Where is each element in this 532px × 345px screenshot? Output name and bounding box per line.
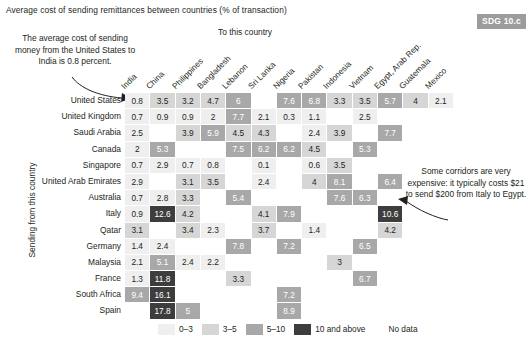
row-header: Saudi Arabia xyxy=(74,127,122,137)
row-header: Canada xyxy=(92,144,121,154)
heatmap-cell: 4 xyxy=(302,174,326,189)
heatmap-cell xyxy=(327,271,351,286)
heatmap-cell xyxy=(226,158,250,173)
heatmap-cell: 3.5 xyxy=(150,93,174,108)
heatmap-cell: 0.9 xyxy=(150,109,174,124)
heatmap-cell: 4.3 xyxy=(252,125,276,140)
column-header: Mexico xyxy=(423,66,448,91)
heatmap-cell: 2.1 xyxy=(125,255,149,270)
heatmap-cell xyxy=(327,109,351,124)
heatmap-cell xyxy=(378,109,402,124)
heatmap-cell xyxy=(353,206,377,221)
heatmap-cell xyxy=(403,206,427,221)
heatmap-cell: 2.4 xyxy=(176,255,200,270)
legend-swatch xyxy=(158,324,175,335)
heatmap-cell xyxy=(378,190,402,205)
heatmap-cell: 0.8 xyxy=(201,158,225,173)
heatmap-cell xyxy=(226,303,250,318)
row-header: Spain xyxy=(100,305,121,315)
left-axis-label: Sending from this country xyxy=(27,150,37,270)
heatmap-cell: 6.2 xyxy=(252,142,276,157)
heatmap-cell xyxy=(176,142,200,157)
heatmap-cell: 4.2 xyxy=(378,223,402,238)
heatmap-cell xyxy=(201,239,225,254)
heatmap-cell xyxy=(201,271,225,286)
heatmap-cell: 7.6 xyxy=(327,190,351,205)
heatmap-cell xyxy=(201,303,225,318)
heatmap-cell xyxy=(429,109,453,124)
heatmap-cell: 1.3 xyxy=(125,271,149,286)
heatmap-cell: 3.2 xyxy=(176,93,200,108)
heatmap-cell xyxy=(252,271,276,286)
row-header: France xyxy=(95,273,121,283)
heatmap-cell xyxy=(378,271,402,286)
heatmap-cell: 7.2 xyxy=(277,239,301,254)
heatmap-cell: 4.2 xyxy=(176,206,200,221)
column-headers: IndiaChinaPhilippinesBangladeshLebanonSr… xyxy=(125,45,457,93)
heatmap-cell: 0.6 xyxy=(302,158,326,173)
heatmap-cell: 2.9 xyxy=(150,158,174,173)
heatmap-cell xyxy=(150,125,174,140)
legend-label: 10 and above xyxy=(315,324,365,334)
heatmap-cell xyxy=(353,255,377,270)
heatmap-cell xyxy=(277,190,301,205)
heatmap-cell xyxy=(150,223,174,238)
heatmap-cell xyxy=(302,190,326,205)
heatmap-cell: 2.2 xyxy=(201,255,225,270)
heatmap-cell xyxy=(429,271,453,286)
heatmap-cell xyxy=(353,158,377,173)
row-header: Australia xyxy=(88,192,121,202)
sdg-badge: SDG 10.c xyxy=(477,14,526,29)
heatmap-cell xyxy=(403,174,427,189)
heatmap-cell xyxy=(378,158,402,173)
heatmap-cell xyxy=(403,125,427,140)
column-header: Nigeria xyxy=(271,66,296,91)
heatmap-cell xyxy=(252,255,276,270)
heatmap-cell xyxy=(201,287,225,302)
heatmap-cell xyxy=(327,206,351,221)
heatmap-cell: 6.5 xyxy=(353,239,377,254)
row-header: Malaysia xyxy=(88,257,121,267)
legend-swatch xyxy=(202,324,219,335)
heatmap-cell: 8.1 xyxy=(327,174,351,189)
heatmap-cell: 4.1 xyxy=(252,206,276,221)
heatmap-cell: 3.5 xyxy=(327,158,351,173)
heatmap-cell xyxy=(403,303,427,318)
heatmap-cell xyxy=(201,190,225,205)
heatmap-cell: 4.7 xyxy=(201,93,225,108)
legend-item: 10 and above xyxy=(294,324,365,335)
heatmap-cell: 0.7 xyxy=(176,158,200,173)
heatmap-cell: 0.7 xyxy=(125,158,149,173)
heatmap-cell: 7.6 xyxy=(277,93,301,108)
heatmap-cell: 8.9 xyxy=(277,303,301,318)
heatmap-cell: 2.4 xyxy=(252,174,276,189)
heatmap-cell xyxy=(353,223,377,238)
heatmap-cell: 1.4 xyxy=(125,239,149,254)
heatmap-cell: 3.5 xyxy=(201,174,225,189)
heatmap-cell xyxy=(429,190,453,205)
heatmap-cell: 3.1 xyxy=(176,174,200,189)
legend-label: 5–10 xyxy=(267,324,285,334)
heatmap-cell: 6 xyxy=(226,93,250,108)
heatmap-cell xyxy=(378,142,402,157)
heatmap-cell xyxy=(252,287,276,302)
heatmap-cell: 0.9 xyxy=(125,206,149,221)
legend-item: 3–5 xyxy=(202,324,237,335)
heatmap-cell: 2.4 xyxy=(302,125,326,140)
heatmap-cell xyxy=(403,271,427,286)
heatmap-cell xyxy=(353,174,377,189)
heatmap-cell xyxy=(429,239,453,254)
heatmap-cell: 7.7 xyxy=(378,125,402,140)
heatmap-cell xyxy=(403,239,427,254)
heatmap-cell xyxy=(403,109,427,124)
heatmap-cell: 2.3 xyxy=(201,223,225,238)
heatmap-cell: 5.4 xyxy=(226,190,250,205)
heatmap-cell xyxy=(277,271,301,286)
heatmap-cell xyxy=(302,239,326,254)
heatmap-cell: 6.4 xyxy=(378,174,402,189)
heatmap-cell: 2.1 xyxy=(429,93,453,108)
heatmap-cell: 3.9 xyxy=(327,125,351,140)
heatmap-cell xyxy=(302,255,326,270)
heatmap-cell: 0.1 xyxy=(252,158,276,173)
heatmap-cell xyxy=(429,206,453,221)
